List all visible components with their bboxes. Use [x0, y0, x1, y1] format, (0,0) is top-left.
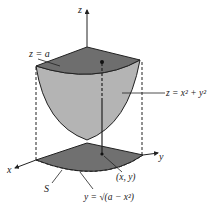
surface-label: z = x² + y² — [165, 88, 206, 98]
x-axis — [15, 160, 36, 168]
leader-boundary — [80, 172, 93, 189]
y-axis-label: y — [158, 151, 164, 162]
x-axis-label: x — [6, 164, 12, 175]
boundary-label: y = √(a − x²) — [83, 192, 134, 203]
paraboloid-volume-diagram: z y x z = a z = x² + y² S (x, y) y = √(a… — [0, 0, 213, 212]
region-s — [36, 143, 143, 171]
base-point-dot — [100, 152, 103, 155]
region-label: S — [44, 183, 49, 194]
point-label: (x, y) — [116, 172, 136, 183]
top-point-dot — [100, 60, 104, 64]
leader-region — [52, 170, 62, 183]
y-axis — [143, 153, 158, 155]
z-axis-label: z — [77, 4, 82, 15]
top-plane-label: z = a — [28, 48, 50, 59]
